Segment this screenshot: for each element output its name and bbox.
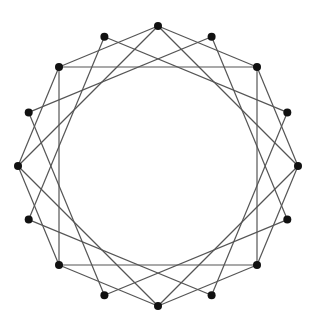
vertex-8 [154, 302, 162, 310]
edge-2-4 [257, 67, 298, 166]
vertex-10 [55, 261, 63, 269]
vertex-15 [100, 33, 108, 41]
vertex-5 [283, 216, 291, 224]
edge-0-2 [158, 26, 257, 67]
edge-4-6 [257, 166, 298, 265]
edge-14-0 [59, 26, 158, 67]
edge-12-14 [18, 67, 59, 166]
vertex-3 [283, 108, 291, 116]
vertex-0 [154, 22, 162, 30]
edge-8-12 [18, 166, 158, 306]
vertex-9 [100, 291, 108, 299]
edge-4-8 [158, 166, 298, 306]
circle-graph-diagram [0, 0, 315, 323]
edge-0-4 [158, 26, 298, 166]
vertex-2 [253, 63, 261, 71]
edge-8-10 [59, 265, 158, 306]
edge-6-8 [158, 265, 257, 306]
vertex-14 [55, 63, 63, 71]
vertex-11 [25, 216, 33, 224]
vertex-12 [14, 162, 22, 170]
vertex-4 [294, 162, 302, 170]
graph-vertices [14, 22, 302, 310]
vertex-13 [25, 108, 33, 116]
edge-10-12 [18, 166, 59, 265]
vertex-6 [253, 261, 261, 269]
edge-12-0 [18, 26, 158, 166]
vertex-7 [208, 291, 216, 299]
vertex-1 [208, 33, 216, 41]
